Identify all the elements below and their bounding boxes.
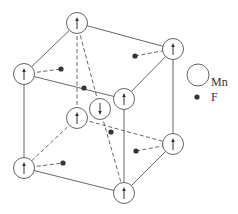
f-atom <box>81 85 86 90</box>
legend-mn-symbol <box>187 64 209 86</box>
edge-top-front <box>24 74 124 99</box>
f-atom <box>108 129 113 134</box>
f-atom <box>132 53 137 58</box>
legend-f-symbol <box>194 94 199 99</box>
mn-atom-front-bottom <box>114 183 135 204</box>
bond-center-top <box>77 23 100 109</box>
mn-atom-back-bottom <box>67 108 88 129</box>
edge-bottom-back <box>77 118 173 144</box>
mn-atom-top-back <box>67 13 88 34</box>
mn-atom-left-bottom <box>14 158 35 179</box>
mn-atom-right-back-top <box>163 39 184 60</box>
edge-top-back <box>77 23 173 49</box>
edge-top-left <box>24 23 77 74</box>
legend: Mn F <box>187 64 228 104</box>
mn-atoms <box>14 13 184 204</box>
mn-atom-right-back-bottom <box>163 134 184 155</box>
f-atom <box>58 66 63 71</box>
legend-mn-label: Mn <box>211 75 228 89</box>
mn-atom-left-top <box>14 64 35 85</box>
mnf2-crystal-diagram: Mn F <box>0 0 238 214</box>
mn-atom-front-top <box>114 89 135 110</box>
mn-atom-body-center <box>90 99 111 120</box>
f-atom <box>133 148 138 153</box>
edge-bottom-front <box>24 168 124 193</box>
f-atom <box>60 160 65 165</box>
bond-center-bottom <box>100 109 124 193</box>
legend-f-label: F <box>211 90 218 104</box>
